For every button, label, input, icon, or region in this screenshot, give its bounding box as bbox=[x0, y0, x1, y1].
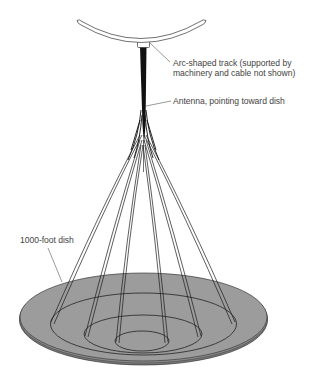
antenna bbox=[140, 47, 147, 172]
track-leader-line bbox=[150, 43, 170, 62]
track-label-line2: machinery and cable not shown) bbox=[173, 68, 295, 78]
track-label: Arc-shaped track (supported by machinery… bbox=[173, 58, 295, 78]
antenna-label: Antenna, pointing toward dish bbox=[173, 96, 285, 106]
antenna-body bbox=[140, 47, 147, 145]
dish-leader-line bbox=[48, 248, 62, 282]
dish bbox=[20, 273, 268, 365]
dish-label: 1000-foot dish bbox=[20, 235, 74, 245]
antenna-leader-line bbox=[146, 101, 171, 106]
arc-track bbox=[77, 20, 206, 43]
track-label-line1: Arc-shaped track (supported by bbox=[173, 58, 295, 68]
telescope-diagram bbox=[0, 0, 316, 377]
